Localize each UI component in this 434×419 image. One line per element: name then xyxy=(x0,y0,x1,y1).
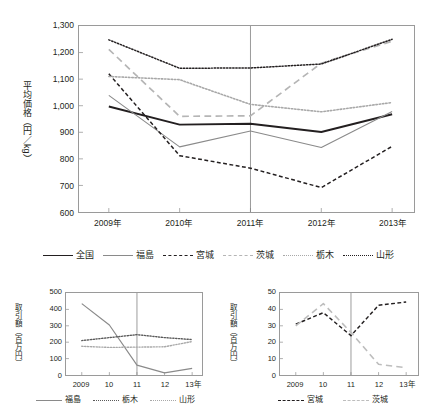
legend-swatch-茨城 xyxy=(223,255,253,256)
sub-right-series-svg xyxy=(280,293,418,375)
legend-label: 栃木 xyxy=(122,396,138,404)
legend-swatch-福島 xyxy=(36,400,62,401)
y-tick-label: 200 xyxy=(30,339,62,347)
x-tick-label: 12 xyxy=(161,381,169,389)
x-tick-label: 13年 xyxy=(185,381,200,389)
legend-label: 茨城 xyxy=(372,396,388,404)
legend-label: 全国 xyxy=(76,251,94,260)
sub-right-x-axis-ticks: 200910111213年 xyxy=(279,379,419,391)
main-price-chart: 平均価格（円／kg） 6007008009001,0001,1001,2001,… xyxy=(0,0,434,275)
legend-label: 福島 xyxy=(136,251,154,260)
sub-right-y-axis-ticks: 01020304050 xyxy=(245,292,276,376)
main-chart-x-axis-ticks: 2009年2010年2011年2012年2013年 xyxy=(78,216,415,230)
x-tick-label: 2009 xyxy=(287,381,304,389)
y-tick-label: 1,100 xyxy=(34,74,74,83)
legend-label: 山形 xyxy=(376,251,394,260)
y-tick-label: 500 xyxy=(30,288,62,296)
x-tick-label: 2011年 xyxy=(237,219,264,228)
legend-item-福島: 福島 xyxy=(103,251,154,260)
sub-left-plot-area xyxy=(65,292,203,376)
transaction-value-chart-left: 取引額（百万円） 0100200300400500 200910111213年 … xyxy=(0,285,217,419)
main-chart-y-axis-ticks: 6007008009001,0001,1001,2001,300 xyxy=(32,25,74,213)
main-chart-plot-area xyxy=(78,25,415,213)
x-tick-label: 2012年 xyxy=(308,219,336,228)
y-tick-label: 10 xyxy=(244,355,276,363)
x-tick-label: 2010年 xyxy=(165,219,193,228)
sub-left-y-axis-ticks: 0100200300400500 xyxy=(28,292,62,376)
main-chart-series-svg xyxy=(79,26,414,212)
y-tick-label: 900 xyxy=(34,128,74,137)
x-tick-label: 12 xyxy=(375,381,383,389)
x-tick-label: 13年 xyxy=(399,381,414,389)
main-chart-y-axis-title: 平均価格（円／kg） xyxy=(22,62,31,182)
y-tick-label: 0 xyxy=(30,372,62,380)
legend-swatch-宮城 xyxy=(163,255,193,256)
y-tick-label: 700 xyxy=(34,182,74,191)
legend-label: 栃木 xyxy=(316,251,334,260)
transaction-value-chart-right: 取引額（百万円） 01020304050 200910111213年 宮城茨城 xyxy=(217,285,434,419)
x-tick-label: 2009 xyxy=(73,381,90,389)
sub-left-x-axis-ticks: 200910111213年 xyxy=(65,379,203,391)
legend-swatch-栃木 xyxy=(283,255,313,256)
legend-item-栃木: 栃木 xyxy=(283,251,334,260)
legend-item-宮城: 宮城 xyxy=(278,396,323,404)
legend-label: 宮城 xyxy=(196,251,214,260)
sub-right-legend: 宮城茨城 xyxy=(245,393,421,407)
x-tick-label: 11 xyxy=(133,381,141,389)
legend-swatch-全国 xyxy=(43,255,73,256)
legend-item-茨城: 茨城 xyxy=(343,396,388,404)
y-tick-label: 40 xyxy=(244,305,276,313)
legend-swatch-栃木 xyxy=(93,400,119,401)
legend-item-福島: 福島 xyxy=(36,396,81,404)
legend-swatch-茨城 xyxy=(343,400,369,401)
x-tick-label: 10 xyxy=(105,381,113,389)
legend-item-宮城: 宮城 xyxy=(163,251,214,260)
legend-item-山形: 山形 xyxy=(343,251,394,260)
main-chart-legend: 全国福島宮城茨城栃木山形 xyxy=(48,247,388,263)
legend-swatch-宮城 xyxy=(278,400,304,401)
legend-item-栃木: 栃木 xyxy=(93,396,138,404)
legend-swatch-福島 xyxy=(103,255,133,256)
y-tick-label: 30 xyxy=(244,322,276,330)
legend-label: 山形 xyxy=(179,396,195,404)
x-tick-label: 2009年 xyxy=(94,219,122,228)
legend-label: 宮城 xyxy=(307,396,323,404)
y-tick-label: 0 xyxy=(244,372,276,380)
legend-item-全国: 全国 xyxy=(43,251,94,260)
legend-swatch-山形 xyxy=(150,400,176,401)
y-tick-label: 20 xyxy=(244,339,276,347)
legend-item-山形: 山形 xyxy=(150,396,195,404)
legend-swatch-山形 xyxy=(343,255,373,256)
legend-label: 茨城 xyxy=(256,251,274,260)
y-tick-label: 1,300 xyxy=(34,21,74,30)
sub-right-plot-area xyxy=(279,292,419,376)
legend-label: 福島 xyxy=(65,396,81,404)
sub-left-series-svg xyxy=(66,293,202,375)
x-tick-label: 2013年 xyxy=(379,219,407,228)
sub-left-y-axis-title: 取引額（百万円） xyxy=(14,299,22,371)
y-tick-label: 1,000 xyxy=(34,101,74,110)
x-tick-label: 10 xyxy=(319,381,327,389)
x-tick-label: 11 xyxy=(347,381,355,389)
y-tick-label: 600 xyxy=(34,209,74,218)
y-tick-label: 800 xyxy=(34,155,74,164)
y-tick-label: 400 xyxy=(30,305,62,313)
y-tick-label: 100 xyxy=(30,355,62,363)
sub-left-legend: 福島栃木山形 xyxy=(20,393,210,407)
y-tick-label: 300 xyxy=(30,322,62,330)
y-tick-label: 1,200 xyxy=(34,48,74,57)
sub-right-y-axis-title: 取引額（百万円） xyxy=(229,299,237,371)
legend-item-茨城: 茨城 xyxy=(223,251,274,260)
y-tick-label: 50 xyxy=(244,288,276,296)
